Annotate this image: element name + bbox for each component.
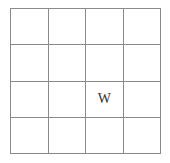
grid-cell-r1-c1 (49, 45, 87, 81)
grid-cell-r2-c2: W (86, 82, 124, 118)
grid-cell-r1-c0 (11, 45, 49, 81)
grid-cell-r1-c2 (86, 45, 124, 81)
grid-cell-r1-c3 (124, 45, 162, 81)
grid-cell-r2-c1 (49, 82, 87, 118)
grid-cell-r0-c3 (124, 9, 162, 45)
grid-board: W (10, 8, 161, 154)
grid-cell-r2-c3 (124, 82, 162, 118)
grid-cell-r3-c2 (86, 118, 124, 154)
grid-cell-r2-c0 (11, 82, 49, 118)
grid-cell-r0-c1 (49, 9, 87, 45)
grid-cell-r0-c2 (86, 9, 124, 45)
grid-cell-r3-c0 (11, 118, 49, 154)
grid-cell-r0-c0 (11, 9, 49, 45)
grid-cell-r3-c1 (49, 118, 87, 154)
grid-cell-r3-c3 (124, 118, 162, 154)
